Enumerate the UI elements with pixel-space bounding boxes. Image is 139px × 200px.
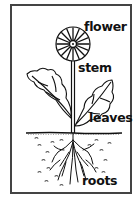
label-flower: flower xyxy=(84,21,127,34)
label-roots: roots xyxy=(82,175,117,188)
label-stem: stem xyxy=(78,62,112,75)
stem-drawing xyxy=(72,56,75,133)
label-leaves: leaves xyxy=(89,112,132,125)
left-leaf-drawing xyxy=(27,68,71,118)
